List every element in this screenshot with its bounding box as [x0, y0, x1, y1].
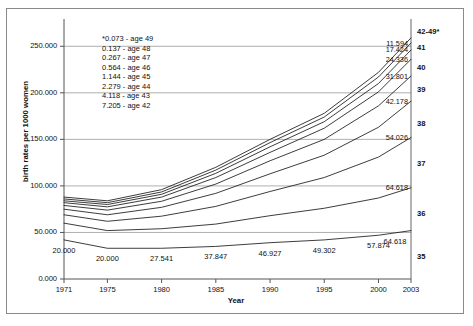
series-age-label: 40 — [417, 63, 425, 72]
point-value-label: 49.302 — [302, 246, 346, 255]
series-age-label: 36 — [417, 209, 425, 218]
point-value-label: 20.000 — [42, 246, 86, 255]
annotation-line: 7.205 - age 42 — [102, 101, 153, 111]
series-age-label: 35 — [417, 252, 425, 261]
y-tick-label: 250.000 — [7, 41, 57, 50]
annotation-note: *0.073 - age 490.137 - age 480.267 - age… — [102, 34, 153, 110]
series-age-label: 37 — [417, 159, 425, 168]
point-value-label: 20.000 — [85, 254, 129, 263]
x-tick-label: 1995 — [302, 285, 346, 294]
series-value-label: 42.178 — [335, 97, 408, 106]
x-axis-title: Year — [7, 296, 465, 305]
x-tick-label: 1985 — [194, 285, 238, 294]
x-tick-label: 1990 — [248, 285, 292, 294]
series-age-label: 39 — [417, 85, 425, 94]
annotation-line: 0.137 - age 48 — [102, 44, 153, 54]
series-age-label: 41 — [417, 43, 425, 52]
y-tick-label: 0.000 — [7, 274, 57, 283]
y-tick-label: 100.000 — [7, 181, 57, 190]
series-value-label: 17.424 — [335, 45, 408, 54]
series-value-label: 54.026 — [335, 133, 408, 142]
y-tick-label: 200.000 — [7, 88, 57, 97]
chart-frame: birth rates per 1000 women Year *0.073 -… — [6, 8, 464, 314]
point-value-label: 46.927 — [248, 249, 292, 258]
point-value-label: 27.541 — [140, 254, 184, 263]
y-axis-title: birth rates per 1000 women — [21, 67, 30, 197]
series-age-label: 38 — [417, 119, 425, 128]
annotation-line: 2.279 - age 44 — [102, 82, 153, 92]
y-tick-label: 150.000 — [7, 134, 57, 143]
plot-area: birth rates per 1000 women Year *0.073 -… — [7, 9, 465, 315]
point-value-label: 37.847 — [194, 252, 238, 261]
series-value-label: 24.336 — [335, 55, 408, 64]
x-tick-label: 1980 — [140, 285, 184, 294]
y-tick-label: 50.000 — [7, 227, 57, 236]
annotation-line: 0.564 - age 46 — [102, 63, 153, 73]
annotation-line: 0.267 - age 47 — [102, 53, 153, 63]
point-value-label: 64.618 — [373, 237, 417, 246]
annotation-line: 1.144 - age 45 — [102, 72, 153, 82]
x-tick-label: 1975 — [85, 285, 129, 294]
x-tick-label: 2003 — [389, 285, 433, 294]
x-tick-label: 1971 — [42, 285, 86, 294]
annotation-line: 4.118 - age 43 — [102, 91, 153, 101]
annotation-line: *0.073 - age 49 — [102, 34, 153, 44]
series-age-label: 42-49* — [417, 27, 439, 36]
series-value-label: 64.618 — [335, 183, 408, 192]
series-value-label: 31.801 — [335, 72, 408, 81]
